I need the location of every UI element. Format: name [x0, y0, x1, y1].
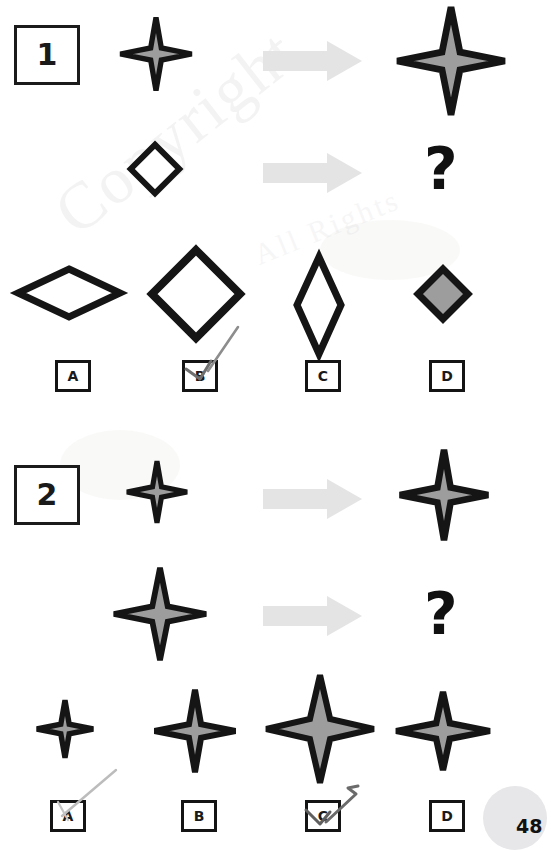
q2-option-d-shape[interactable] [393, 690, 493, 772]
question-number-2: 2 [37, 480, 58, 510]
q2-prompt-small-star [125, 458, 189, 526]
q1-option-letter-c: C [318, 369, 328, 383]
q2-option-letter-c: C [318, 809, 328, 823]
q1-query-small-diamond [128, 140, 182, 198]
q2-option-letter-d: D [441, 809, 453, 823]
q2-option-box-a[interactable]: A [50, 800, 86, 832]
q2-option-b-shape[interactable] [152, 685, 238, 777]
q1-prompt-large-star [394, 5, 508, 117]
q2-option-box-d[interactable]: D [429, 800, 465, 832]
q2-prompt-medium-star [397, 445, 491, 545]
q2-option-letter-b: B [194, 809, 205, 823]
q2-option-box-c[interactable]: C [305, 800, 341, 832]
page-number: 48 [516, 815, 542, 837]
q1-option-letter-a: A [68, 369, 79, 383]
q1-option-letter-b: B [195, 369, 206, 383]
q1-option-b-shape[interactable] [147, 245, 245, 343]
q1-option-box-b[interactable]: B [182, 360, 218, 392]
q2-option-a-shape[interactable] [35, 698, 95, 760]
question-number-1: 1 [37, 40, 58, 70]
q2-option-box-b[interactable]: B [181, 800, 217, 832]
q2-option-letter-a: A [63, 809, 74, 823]
q2-query-medium-star [112, 562, 208, 666]
q1-option-box-d[interactable]: D [429, 360, 465, 392]
q2-prompt-arrow [263, 478, 363, 520]
q1-option-box-c[interactable]: C [305, 360, 341, 392]
q1-option-a-shape[interactable] [14, 265, 124, 321]
q2-question-mark: ? [424, 585, 458, 643]
question-number-box-1: 1 [14, 25, 80, 85]
q1-option-letter-d: D [441, 369, 453, 383]
q2-option-c-shape[interactable] [264, 670, 376, 788]
q1-option-box-a[interactable]: A [55, 360, 91, 392]
q1-option-c-shape[interactable] [293, 253, 345, 358]
q2-query-arrow [263, 595, 363, 637]
q1-option-d-shape[interactable] [414, 265, 472, 323]
q1-question-mark: ? [424, 140, 458, 198]
q1-prompt-small-star [118, 14, 194, 94]
q1-prompt-arrow [263, 40, 363, 82]
q1-query-arrow [263, 152, 363, 194]
question-number-box-2: 2 [14, 465, 80, 525]
